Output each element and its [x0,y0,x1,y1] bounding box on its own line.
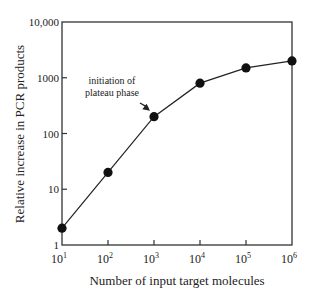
pcr-log-log-chart: 110100100010,000 101102103104105106 init… [0,0,314,294]
x-tick-label: 105 [235,251,251,266]
data-point [287,56,296,65]
data-point [241,63,250,72]
y-tick-label: 10 [48,183,60,195]
plot-frame [62,22,292,245]
x-tick-label: 104 [189,251,205,266]
x-axis-ticks: 101102103104105106 [51,240,297,266]
data-point [57,224,66,233]
y-axis-label: Relative increase in PCR products [12,45,27,223]
data-point [103,168,112,177]
annotation-text: initiation of [89,75,137,86]
y-tick-label: 1000 [37,72,60,84]
annotation-text: plateau phase [85,87,140,98]
x-tick-label: 101 [51,251,67,266]
y-axis-ticks: 110100100010,000 [29,16,67,251]
data-point [195,79,204,88]
y-tick-label: 1 [54,239,60,251]
x-tick-label: 106 [281,251,297,266]
data-point [149,112,158,121]
plateau-annotation: initiation ofplateau phase [85,75,150,111]
x-tick-label: 102 [97,251,113,266]
plot-border [62,22,292,245]
x-tick-label: 103 [143,251,159,266]
x-axis-label: Number of input target molecules [89,273,264,288]
y-tick-label: 100 [43,128,60,140]
y-tick-label: 10,000 [29,16,60,28]
